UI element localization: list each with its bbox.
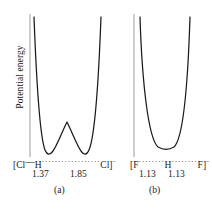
- panel-a-distance-right: 1.85: [70, 169, 87, 179]
- y-axis-label: Potential energy: [15, 17, 25, 137]
- panel-b-left-bond-dotted: ········: [138, 157, 164, 166]
- panel-a-species-formula: [Cl—H··················Cl]−: [13, 157, 116, 170]
- panel-a-left-bond-solid: —: [25, 157, 35, 167]
- panel-b-distance-right: 1.13: [168, 169, 185, 179]
- panel-a-caption: (a): [54, 185, 65, 195]
- panel-b-potential-curve: [140, 17, 190, 149]
- panel-a-right-atom: Cl: [100, 160, 109, 170]
- panel-a-distance-left: 1.37: [32, 169, 49, 179]
- panel-a-right-bond-dotted: ··················: [42, 157, 101, 166]
- panel-b-caption: (b): [149, 185, 160, 195]
- panel-a-charge: −: [112, 158, 116, 165]
- panel-a-left-atom: Cl: [16, 160, 25, 170]
- panel-b-right-bond-dotted: ········: [171, 157, 197, 166]
- potential-energy-figure: Potential energy [Cl—H··················…: [0, 0, 212, 209]
- panel-a-potential-curve: [34, 17, 101, 154]
- panel-b-distance-left: 1.13: [139, 169, 156, 179]
- panel-b-charge: −: [206, 158, 210, 165]
